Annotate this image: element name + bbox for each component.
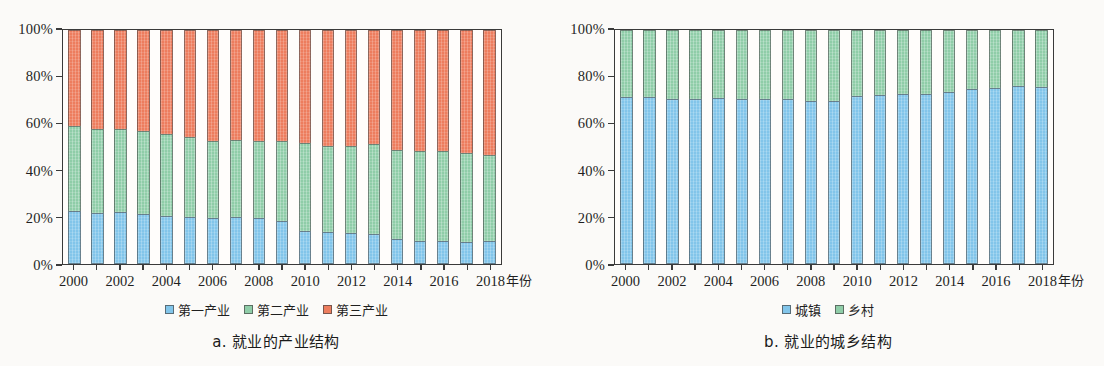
stacked-bar[interactable] [943, 30, 955, 264]
stacked-bar[interactable] [851, 30, 863, 264]
stacked-bar[interactable] [160, 30, 172, 264]
bar-segment [253, 218, 265, 264]
x-axis-tick-mark [73, 265, 74, 270]
x-axis-tick-mark [903, 265, 904, 270]
bar-segment [460, 30, 472, 153]
stacked-bar[interactable] [368, 30, 380, 264]
legend-item[interactable]: 第二产业 [244, 300, 309, 319]
stacked-bar[interactable] [207, 30, 219, 264]
stacked-bar[interactable] [666, 30, 678, 264]
stacked-bar[interactable] [897, 30, 909, 264]
stacked-bar[interactable] [782, 30, 794, 264]
bar-segment [345, 146, 357, 233]
stacked-bar[interactable] [966, 30, 978, 264]
x-axis-tick-mark [304, 265, 305, 270]
stacked-bar[interactable] [1012, 30, 1024, 264]
bar-segment [782, 99, 794, 264]
bar-segment [437, 241, 449, 264]
x-axis-tick-mark [166, 265, 167, 270]
panel-industry-structure: 0%20%40%60%80%100% 200020022004200620082… [0, 0, 552, 366]
legend-item[interactable]: 第一产业 [165, 300, 230, 319]
bar-slot [938, 30, 961, 264]
bar-slot [1030, 30, 1053, 264]
stacked-bar[interactable] [643, 30, 655, 264]
bar-segment [184, 137, 196, 217]
x-axis-tick-mark [718, 265, 719, 270]
bar-segment [160, 134, 172, 216]
bar-segment [966, 30, 978, 89]
x-axis-tick-label: 2000 [59, 273, 88, 290]
bar-segment [391, 239, 403, 264]
stacked-bar[interactable] [184, 30, 196, 264]
stacked-bar[interactable] [736, 30, 748, 264]
stacked-bar[interactable] [345, 30, 357, 264]
bar-slot [776, 30, 799, 264]
stacked-bar[interactable] [137, 30, 149, 264]
bar-segment [414, 241, 426, 264]
stacked-bar[interactable] [689, 30, 701, 264]
bar-segment [299, 30, 311, 143]
x-axis-tick-label: 2010 [291, 273, 320, 290]
bar-slot [799, 30, 822, 264]
bar-segment [712, 30, 724, 98]
stacked-bar[interactable] [828, 30, 840, 264]
stacked-bar[interactable] [460, 30, 472, 264]
stacked-bar[interactable] [68, 30, 80, 264]
stacked-bar[interactable] [874, 30, 886, 264]
stacked-bar[interactable] [414, 30, 426, 264]
stacked-bar[interactable] [114, 30, 126, 264]
bar-segment [943, 30, 955, 92]
stacked-bar[interactable] [483, 30, 495, 264]
legend-item[interactable]: 第三产业 [323, 300, 388, 319]
stacked-bar[interactable] [276, 30, 288, 264]
x-axis-tick-mark [258, 265, 259, 270]
stacked-bar[interactable] [437, 30, 449, 264]
bar-segment [920, 30, 932, 94]
stacked-bar[interactable] [391, 30, 403, 264]
x-axis-tick-label: 2008 [244, 273, 273, 290]
stacked-bar[interactable] [805, 30, 817, 264]
bar-segment [91, 129, 103, 213]
x-axis-tick-mark [926, 265, 927, 270]
legend-label: 第三产业 [336, 300, 388, 319]
bar-segment [207, 141, 219, 218]
x-axis-tick-mark [1019, 265, 1020, 270]
legend-item[interactable]: 乡村 [835, 300, 874, 319]
x-axis-tick-label: 2004 [704, 273, 733, 290]
bar-segment [1035, 30, 1047, 87]
stacked-bar[interactable] [920, 30, 932, 264]
stacked-bar[interactable] [91, 30, 103, 264]
bar-slot [340, 30, 363, 264]
stacked-bar[interactable] [322, 30, 334, 264]
stacked-bar[interactable] [759, 30, 771, 264]
bar-segment [828, 30, 840, 101]
stacked-bar[interactable] [299, 30, 311, 264]
stacked-bar[interactable] [712, 30, 724, 264]
legend-label: 第二产业 [257, 300, 309, 319]
bar-slot [684, 30, 707, 264]
y-axis-tick-label: 20% [578, 209, 605, 226]
stacked-bar[interactable] [230, 30, 242, 264]
panel-urban-rural-structure: 0%20%40%60%80%100% 200020022004200620082… [552, 0, 1104, 366]
bar-segment [666, 99, 678, 264]
x-axis-tick-mark [764, 265, 765, 270]
bar-segment [460, 153, 472, 242]
bar-segment [276, 30, 288, 141]
stacked-bar[interactable] [989, 30, 1001, 264]
stacked-bar[interactable] [253, 30, 265, 264]
bar-slot [730, 30, 753, 264]
bar-segment [322, 30, 334, 146]
stacked-bar[interactable] [1035, 30, 1047, 264]
stacked-bar[interactable] [620, 30, 632, 264]
x-axis-tick-mark [972, 265, 973, 270]
legend-item[interactable]: 城镇 [782, 300, 821, 319]
x-axis-tick-mark [671, 265, 672, 270]
bar-segment [689, 99, 701, 264]
bar-segment [230, 217, 242, 264]
x-axis-tick-label: 2000 [611, 273, 640, 290]
bar-segment [391, 150, 403, 239]
bar-slot [247, 30, 270, 264]
legend-swatch-icon [782, 305, 791, 314]
x-axis-tick-mark [949, 265, 950, 270]
bar-segment [643, 97, 655, 264]
